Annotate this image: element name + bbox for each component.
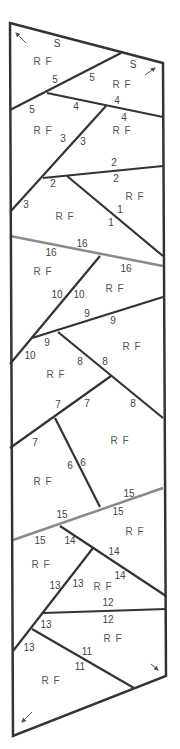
seam-line-4 <box>47 93 163 117</box>
rf-label: R F <box>33 125 52 136</box>
seam-number: 12 <box>102 597 114 608</box>
seam-number: 6 <box>67 460 73 471</box>
seam-number: 15 <box>123 488 135 499</box>
paper-piecing-diagram: SS55544433222113161616101099910888777661… <box>0 0 180 749</box>
seam-number: 1 <box>108 217 114 228</box>
seam-number: 16 <box>45 247 57 258</box>
seam-number: 7 <box>55 399 61 410</box>
seam-line-5 <box>10 53 121 110</box>
seam-number: S <box>54 38 61 49</box>
seam-number: 9 <box>110 315 116 326</box>
rf-label: R F <box>55 211 74 222</box>
rf-label: R F <box>125 191 144 202</box>
seam-number: 2 <box>50 178 56 189</box>
seam-line-12 <box>43 609 166 613</box>
seam-number: 2 <box>111 157 117 168</box>
seam-number: 11 <box>82 646 93 657</box>
seam-number: 2 <box>113 173 119 184</box>
seam-number: 14 <box>114 570 126 581</box>
seam-number: 1 <box>117 204 123 215</box>
seam-number: 10 <box>73 289 85 300</box>
seam-number: 11 <box>75 661 86 672</box>
seam-number: 16 <box>76 238 88 249</box>
seam-number: 3 <box>60 133 66 144</box>
seam-line-9 <box>32 297 163 338</box>
seam-number: 8 <box>130 398 136 409</box>
seam-number: 12 <box>102 614 114 625</box>
seam-number: 15 <box>112 506 124 517</box>
rf-label: R F <box>41 675 60 686</box>
seam-line-6 <box>55 418 100 507</box>
seam-number: 14 <box>64 535 76 546</box>
rf-label: R F <box>125 526 144 537</box>
arrow-down-left-icon <box>22 712 32 722</box>
seam-number: 13 <box>40 619 52 630</box>
seam-number: 9 <box>44 337 50 348</box>
seam-number: 7 <box>32 437 38 448</box>
rf-labels: R FR FR FR FR FR FR FR FR FR FR FR FR FR… <box>31 56 144 686</box>
seam-number: 4 <box>73 101 79 112</box>
seam-line-13 <box>13 548 93 651</box>
seam-number: 8 <box>77 356 83 367</box>
seam-number: 5 <box>52 74 58 85</box>
seam-number: 16 <box>120 263 132 274</box>
seam-number: 4 <box>121 112 127 123</box>
seam-number: 10 <box>24 350 36 361</box>
seam-number: 7 <box>84 398 90 409</box>
seam-number: 15 <box>56 509 68 520</box>
seam-number: 9 <box>84 308 90 319</box>
rf-label: R F <box>46 369 65 380</box>
seam-line-2 <box>43 166 163 178</box>
seam-number: 13 <box>23 642 35 653</box>
seam-line-7 <box>10 376 111 448</box>
arrow-down-right-icon <box>151 664 158 670</box>
rf-label: R F <box>112 79 131 90</box>
seam-number: 3 <box>23 199 29 210</box>
rf-label: R F <box>122 341 141 352</box>
rf-label: R F <box>33 56 52 67</box>
seam-number: 14 <box>108 546 120 557</box>
seam-number: 3 <box>80 136 86 147</box>
arrow-up-right-icon <box>145 68 155 75</box>
seam-number: S <box>130 59 137 70</box>
rf-label: R F <box>105 283 124 294</box>
seam-number: 5 <box>29 104 35 115</box>
rf-label: R F <box>112 125 131 136</box>
rf-label: R F <box>103 633 122 644</box>
seam-number: 4 <box>114 95 120 106</box>
rf-label: R F <box>33 476 52 487</box>
arrow-up-left-icon <box>16 33 26 43</box>
seam-number: 15 <box>34 535 46 546</box>
seam-number: 5 <box>89 72 95 83</box>
seam-number: 13 <box>49 580 61 591</box>
seam-number: 13 <box>72 578 84 589</box>
rf-label: R F <box>33 266 52 277</box>
seam-lines <box>10 53 166 688</box>
seam-number: 10 <box>51 289 63 300</box>
seam-number: 8 <box>102 356 108 367</box>
rf-label: R F <box>93 581 112 592</box>
rf-label: R F <box>110 435 129 446</box>
seam-line-8 <box>58 332 163 418</box>
seam-number: 6 <box>80 457 86 468</box>
rf-label: R F <box>31 559 50 570</box>
